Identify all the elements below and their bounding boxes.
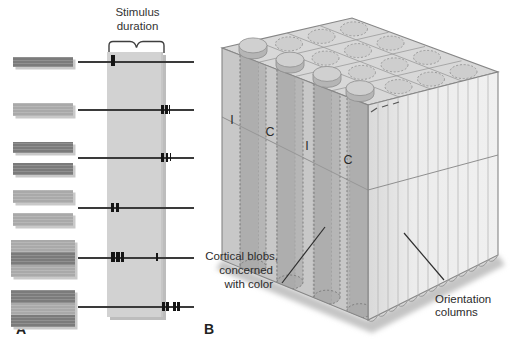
- spike-tick: [156, 253, 158, 261]
- spike-tick: [170, 153, 172, 161]
- stimulus-band-light: [11, 240, 75, 252]
- stimulus-band-dark: [13, 163, 73, 175]
- spike-tick: [166, 302, 169, 311]
- spike-tick: [161, 153, 164, 162]
- stimulus-bar: [13, 190, 73, 203]
- stimulus-bar: [11, 240, 75, 277]
- spike-tick: [111, 55, 115, 66]
- spike-tick: [162, 302, 165, 311]
- response-line: [78, 257, 194, 259]
- stimulus-bar: [13, 57, 73, 67]
- spike-tick: [173, 302, 176, 311]
- spike-tick: [111, 203, 114, 212]
- stimulus-bar: [11, 290, 75, 327]
- stimulus-band-light: [13, 103, 73, 116]
- spike-tick: [111, 252, 115, 262]
- stimulus-band-dark: [11, 290, 75, 303]
- stimulus-band-dark: [13, 57, 73, 67]
- stimulus-band-light: [13, 190, 73, 203]
- stimulus-bar: [13, 213, 73, 226]
- spike-tick: [121, 252, 124, 262]
- spike-tick: [116, 203, 119, 212]
- response-line: [78, 207, 194, 209]
- spike-tick: [161, 105, 164, 114]
- response-line: [78, 157, 194, 159]
- stimulus-band-light: [11, 265, 75, 277]
- stimulus-band-dark: [13, 142, 73, 153]
- spike-tick: [177, 302, 180, 311]
- stimulus-band-dark: [11, 315, 75, 327]
- response-line: [78, 61, 194, 63]
- stimulus-bar: [13, 163, 73, 175]
- spike-tick: [169, 105, 171, 114]
- stimulus-band-light: [13, 213, 73, 226]
- response-line: [78, 109, 194, 111]
- spike-tick: [166, 153, 169, 162]
- stimulus-band-light: [11, 303, 75, 315]
- stimulus-band-dark: [11, 252, 75, 265]
- spike-tick: [165, 105, 168, 114]
- stimulus-bar: [13, 142, 73, 153]
- figure-visual-cortex: Stimulus duration A B: [0, 0, 513, 350]
- stimulus-response-rows: [0, 0, 513, 350]
- stimulus-bar: [13, 103, 73, 116]
- spike-tick: [116, 252, 120, 262]
